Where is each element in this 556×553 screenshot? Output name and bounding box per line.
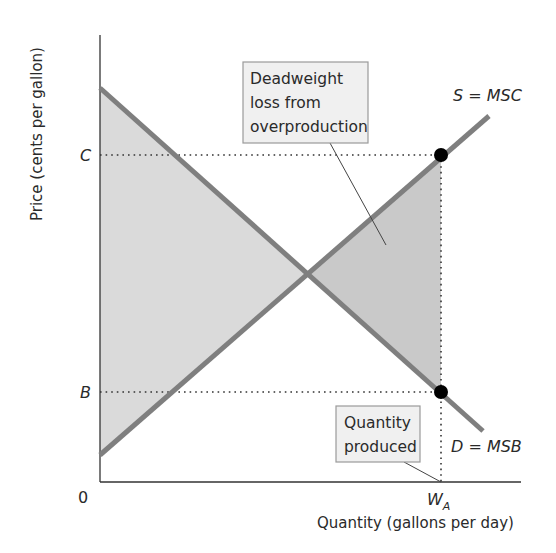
x-tick-WA: WA [427, 490, 450, 513]
deadweight-loss-chart: Deadweight loss from overproduction Quan… [0, 0, 556, 553]
y-axis-label: Price (cents per gallon) [28, 47, 46, 221]
quantity-leader-line [404, 462, 441, 482]
quantity-callout-line1: Quantity [344, 414, 411, 432]
origin-label: 0 [78, 488, 88, 507]
deadweight-loss-area [306, 155, 441, 392]
quantity-callout-line2: produced [344, 438, 417, 456]
deadweight-callout-line2: loss from [250, 94, 321, 112]
deadweight-callout-line3: overproduction [250, 118, 368, 136]
point-WA-on-msb [434, 385, 448, 399]
y-tick-B: B [80, 383, 91, 402]
y-tick-C: C [80, 146, 92, 165]
supply-label: S = MSC [453, 86, 523, 105]
demand-label: D = MSB [451, 437, 522, 456]
x-axis-label: Quantity (gallons per day) [317, 514, 514, 532]
point-WA-on-msc [434, 148, 448, 162]
deadweight-callout-line1: Deadweight [250, 70, 343, 88]
